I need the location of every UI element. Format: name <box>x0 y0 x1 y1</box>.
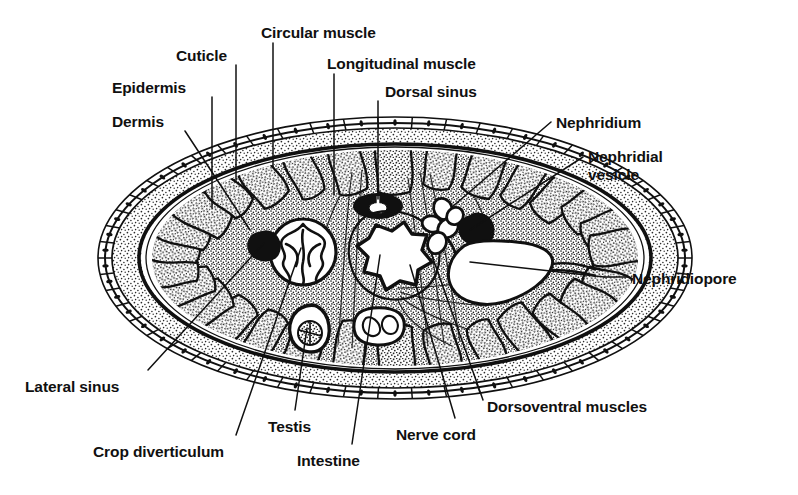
label-nephridium: Nephridium <box>556 114 641 132</box>
label-longitudinal-muscle: Longitudinal muscle <box>327 55 476 73</box>
epidermal-cell-boundary <box>412 388 413 399</box>
label-intestine: Intestine <box>297 452 360 470</box>
epidermal-cell-boundary <box>378 388 379 399</box>
label-testis: Testis <box>268 418 311 436</box>
nerve-cord <box>354 308 404 345</box>
label-nephridiopore: Nephridiopore <box>632 270 737 288</box>
label-cuticle: Cuticle <box>176 47 227 65</box>
testis <box>290 305 330 352</box>
label-nephridial-vesicle: Nephridial vesicle <box>588 148 663 185</box>
label-dorsoventral-muscles: Dorsoventral muscles <box>487 398 647 416</box>
leech-cross-section-figure: DermisEpidermisCuticleCircular muscleLon… <box>0 0 798 495</box>
label-lateral-sinus: Lateral sinus <box>25 378 119 396</box>
label-dorsal-sinus: Dorsal sinus <box>385 83 477 101</box>
label-crop-diverticulum: Crop diverticulum <box>93 443 224 461</box>
epidermal-cell-boundary <box>412 117 413 128</box>
anatomy-drawing <box>0 0 798 495</box>
label-epidermis: Epidermis <box>112 79 186 97</box>
label-circular-muscle: Circular muscle <box>261 24 376 42</box>
label-nerve-cord: Nerve cord <box>396 426 476 444</box>
epidermal-cell-nucleus <box>393 119 396 125</box>
label-dermis: Dermis <box>112 113 164 131</box>
epidermal-cell-nucleus <box>393 390 396 396</box>
